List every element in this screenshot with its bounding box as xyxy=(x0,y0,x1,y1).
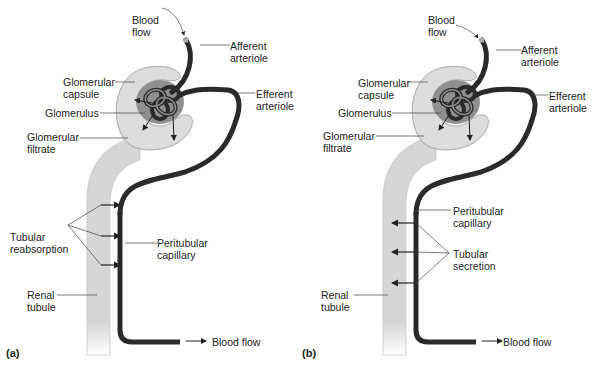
panel-a-reabsorption: Blood flow Afferent arteriole Efferent a… xyxy=(0,0,301,374)
afferent-arteriole xyxy=(468,40,486,92)
label-glomerular-capsule: Glomerular capsule xyxy=(63,76,115,100)
label-glomerulus: Glomerulus xyxy=(338,107,392,119)
renal-tubule xyxy=(383,135,436,355)
label-blood-flow-in: Blood flow xyxy=(132,14,159,38)
panel-letter-b: (b) xyxy=(302,347,316,359)
label-efferent-arteriole: Efferent arteriole xyxy=(549,90,587,114)
renal-tubule xyxy=(87,135,140,355)
label-blood-flow-in: Blood flow xyxy=(428,14,455,38)
label-afferent-arteriole: Afferent arteriole xyxy=(521,44,559,68)
label-process: Tubular reabsorption xyxy=(10,231,68,255)
label-process: Tubular secretion xyxy=(453,248,496,272)
label-renal-tubule: Renal tubule xyxy=(321,289,350,313)
label-glomerulus: Glomerulus xyxy=(45,107,99,119)
label-blood-flow-out: Blood flow xyxy=(212,336,260,348)
peritubular-capillary xyxy=(120,212,180,342)
label-renal-tubule: Renal tubule xyxy=(27,289,56,313)
label-blood-flow-out: Blood flow xyxy=(503,336,551,348)
label-peritubular-capillary: Peritubular capillary xyxy=(453,205,504,229)
label-glomerular-capsule: Glomerular capsule xyxy=(358,77,410,101)
afferent-arteriole xyxy=(172,40,190,92)
label-glomerular-filtrate: Glomerular filtrate xyxy=(27,131,79,155)
label-peritubular-capillary: Peritubular capillary xyxy=(157,237,208,261)
label-glomerular-filtrate: Glomerular filtrate xyxy=(323,130,375,154)
panel-letter-a: (a) xyxy=(6,347,19,359)
label-afferent-arteriole: Afferent arteriole xyxy=(230,40,268,64)
panel-b-secretion: Blood flow Afferent arteriole Efferent a… xyxy=(296,0,597,374)
label-efferent-arteriole: Efferent arteriole xyxy=(256,88,294,112)
